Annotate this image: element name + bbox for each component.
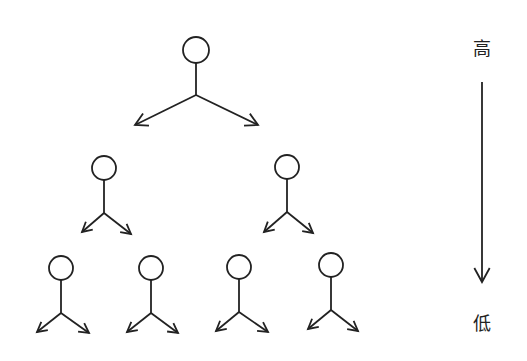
node-circle-icon bbox=[183, 37, 209, 63]
node-level-3-4 bbox=[308, 253, 358, 331]
high-low-scale bbox=[474, 82, 489, 282]
arrowhead-icon bbox=[257, 322, 268, 332]
left-branch-arrow bbox=[135, 95, 196, 125]
node-circle-icon bbox=[319, 253, 343, 277]
node-level-3-3 bbox=[216, 255, 268, 332]
node-circle-icon bbox=[227, 255, 251, 279]
low-label: 低 bbox=[473, 309, 491, 335]
node-circle-icon bbox=[92, 156, 116, 180]
node-level-3-1 bbox=[37, 256, 89, 333]
node-level-2-1 bbox=[82, 156, 131, 234]
right-branch-arrow bbox=[287, 212, 313, 233]
hierarchy-diagram bbox=[0, 0, 527, 361]
node-circle-icon bbox=[49, 256, 73, 280]
high-label: 高 bbox=[473, 34, 491, 60]
right-branch-arrow bbox=[331, 310, 358, 331]
node-circle-icon bbox=[275, 155, 299, 179]
node-circle-icon bbox=[139, 256, 163, 280]
node-level-1-1 bbox=[135, 37, 258, 126]
node-level-2-2 bbox=[264, 155, 313, 233]
diagram-nodes bbox=[37, 37, 358, 333]
node-level-3-2 bbox=[127, 256, 178, 333]
right-branch-arrow bbox=[104, 213, 131, 234]
right-branch-arrow bbox=[196, 95, 258, 125]
